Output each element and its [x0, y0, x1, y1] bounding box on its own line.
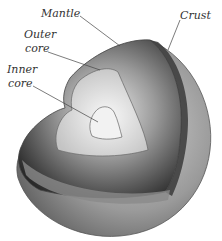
mantle-label: Mantle: [41, 7, 80, 20]
outer-core-label-line1: Outer: [24, 28, 56, 41]
inner-core-label-line2: core: [8, 77, 33, 90]
mantle-leader-line: [80, 16, 120, 46]
crust-leader-line: [168, 20, 180, 50]
crust-label: Crust: [180, 9, 211, 22]
inner-core-label-line1: Inner: [7, 63, 37, 76]
outer-core-label-line2: core: [25, 42, 50, 55]
